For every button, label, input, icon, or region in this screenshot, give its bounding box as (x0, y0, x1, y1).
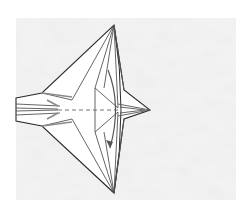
origami-diagram (0, 0, 247, 213)
